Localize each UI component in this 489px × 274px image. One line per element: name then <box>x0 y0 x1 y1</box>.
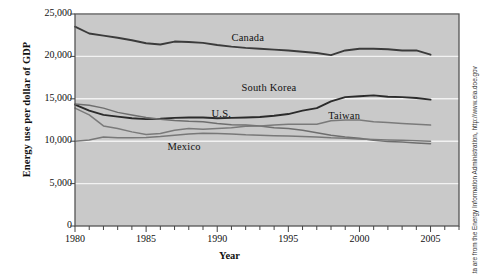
x-axis-title: Year <box>0 250 459 261</box>
series-label-taiwan: Taiwan <box>328 110 360 121</box>
series-label-south-korea: South Korea <box>241 82 296 93</box>
x-tick-label: 2000 <box>334 233 384 244</box>
series-label-u-s: U.S. <box>212 108 231 119</box>
series-label-mexico: Mexico <box>167 141 200 152</box>
x-tick-label: 2005 <box>406 233 456 244</box>
x-tick-label: 1985 <box>121 233 171 244</box>
series-label-canada: Canada <box>231 32 264 43</box>
x-tick-label: 1980 <box>50 233 100 244</box>
x-tick-label: 1995 <box>263 233 313 244</box>
x-tick-label: 1990 <box>192 233 242 244</box>
source-note: Data are from the Energy Information Adm… <box>471 0 478 274</box>
energy-use-line-chart-figure: Energy use per dollar of GDP 25,00020,00… <box>0 0 489 274</box>
